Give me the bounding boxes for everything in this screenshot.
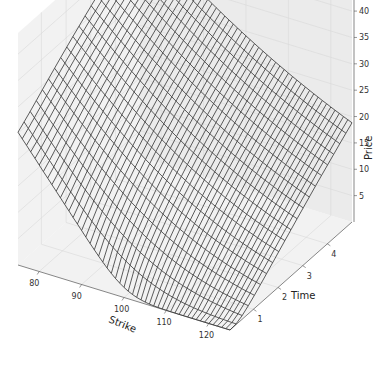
x-tick-label: 120 (199, 331, 214, 340)
z-tick-label: 25 (359, 86, 369, 95)
x-tick-label: 110 (156, 318, 171, 327)
z-tick-label: 40 (359, 7, 369, 16)
z-tick-label: 20 (359, 113, 369, 122)
x-tick-label: 80 (29, 279, 39, 288)
y-tick-label: 2 (282, 293, 287, 302)
y-tick-label: 3 (307, 272, 312, 281)
y-tick-label: 1 (257, 315, 262, 324)
x-tick-label: 90 (72, 292, 82, 301)
z-tick-label: 10 (359, 165, 369, 174)
z-tick-label: 30 (359, 60, 369, 69)
x-axis-label: Strike (107, 314, 138, 335)
x-tick-label: 100 (114, 305, 129, 314)
y-tick-label: 4 (331, 250, 336, 259)
surface-plot: 80901001101201234510152025303540 Strike … (0, 0, 390, 368)
z-tick-label: 35 (359, 33, 369, 42)
y-axis-label: Time (290, 290, 315, 301)
z-axis-label: Price (363, 136, 374, 160)
z-tick-label: 5 (359, 192, 364, 201)
